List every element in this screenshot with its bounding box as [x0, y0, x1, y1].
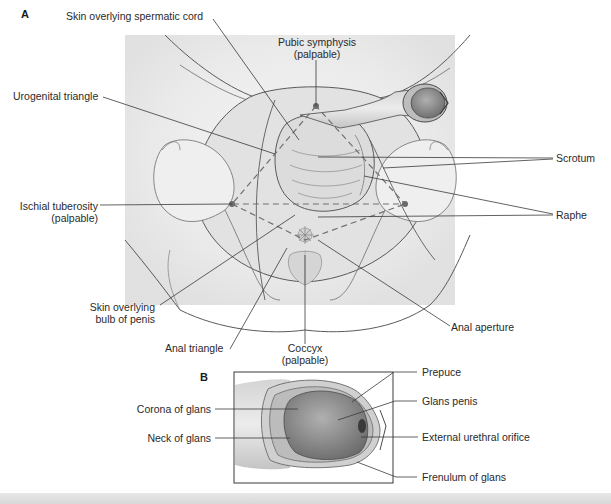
label-frenulum-of-glans: Frenulum of glans [422, 471, 506, 483]
label-ischial-tuberosity: Ischial tuberosity (palpable) [0, 200, 98, 224]
label-scrotum: Scrotum [556, 152, 595, 164]
label-ischial-tuberosity-note: (palpable) [0, 212, 98, 224]
panel-b-letter: B [200, 371, 208, 383]
pelvis-body [125, 35, 470, 332]
label-external-urethral-orifice: External urethral orifice [422, 431, 530, 443]
label-corona-of-glans: Corona of glans [90, 403, 211, 415]
label-skin-overlying-bulb-of-penis: Skin overlying bulb of penis [50, 301, 155, 325]
label-ischial-tuberosity-name: Ischial tuberosity [0, 200, 98, 212]
label-skin-bulb-line1: Skin overlying [50, 301, 155, 313]
label-coccyx: Coccyx (palpable) [270, 342, 340, 366]
label-skin-overlying-spermatic-cord: Skin overlying spermatic cord [66, 10, 203, 22]
label-coccyx-name: Coccyx [270, 342, 340, 354]
label-urogenital-triangle: Urogenital triangle [13, 90, 98, 102]
label-skin-bulb-line2: bulb of penis [50, 313, 155, 325]
perineum-illustration [0, 0, 611, 504]
bottom-edge-shadow [0, 493, 611, 504]
label-prepuce: Prepuce [422, 366, 461, 378]
panel-a-letter: A [21, 8, 29, 20]
label-raphe: Raphe [556, 209, 587, 221]
label-neck-of-glans: Neck of glans [90, 432, 211, 444]
label-pubic-symphysis-name: Pubic symphysis [262, 36, 372, 48]
anatomy-figure: A B Skin overlying spermatic cord Pubic … [0, 0, 611, 504]
label-anal-aperture: Anal aperture [451, 321, 514, 333]
label-coccyx-note: (palpable) [270, 354, 340, 366]
label-anal-triangle: Anal triangle [165, 342, 223, 354]
label-glans-penis: Glans penis [422, 395, 477, 407]
right-ischial-marker [402, 201, 408, 207]
label-pubic-symphysis: Pubic symphysis (palpable) [262, 36, 372, 60]
label-pubic-symphysis-note: (palpable) [262, 48, 372, 60]
